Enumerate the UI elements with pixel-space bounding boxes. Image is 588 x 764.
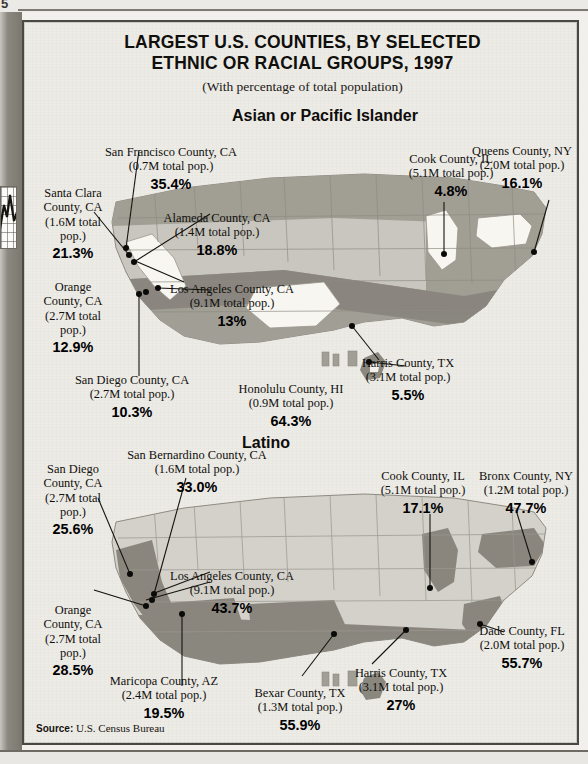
infographic-panel: LARGEST U.S. COUNTIES, BY SELECTED ETHNI…: [22, 20, 579, 745]
callout-los-angeles-latino: Los Angeles County, CA (9.1M total pop.)…: [152, 555, 312, 632]
county-percent: 5.5%: [330, 386, 486, 405]
county-percent: 10.3%: [52, 403, 212, 422]
county-name: San Diego County, CA: [75, 373, 189, 387]
title-line-2: ETHNIC OR RACIAL GROUPS, 1997: [24, 53, 581, 74]
county-percent: 55.7%: [456, 654, 588, 673]
page-top-rule: [18, 9, 588, 11]
callout-san-diego-asian: San Diego County, CA (2.7M total pop.) 1…: [52, 359, 212, 436]
county-name: San Bernardino County, CA: [127, 448, 267, 462]
county-name: Maricopa County, AZ: [110, 674, 218, 688]
county-percent: 19.5%: [86, 704, 242, 723]
county-percent: 33.0%: [104, 478, 290, 497]
edge-thumbnail-chart: [0, 186, 17, 249]
page-left-gutter: [0, 12, 22, 752]
county-population: (9.1M total pop.): [190, 296, 275, 310]
callout-bronx-latino: Bronx County, NY (1.2M total pop.) 47.7%: [464, 455, 588, 532]
county-population: (2.4M total pop.): [122, 688, 207, 702]
callout-harris-latino: Harris County, TX (3.1M total pop.) 27%: [326, 652, 476, 729]
title-line-1: LARGEST U.S. COUNTIES, BY SELECTED: [24, 32, 581, 53]
county-name: Dade County, FL: [479, 624, 565, 638]
county-name: Honolulu County, HI: [239, 382, 344, 396]
county-percent: 25.6%: [22, 520, 124, 539]
county-population: (2.7M total pop.): [45, 309, 101, 337]
county-name: Alameda County, CA: [164, 211, 271, 225]
county-name: Queens County, NY: [472, 144, 572, 158]
county-population: (5.1M total pop.): [381, 483, 466, 497]
county-population: (0.7M total pop.): [129, 159, 214, 173]
county-population: (2.0M total pop.): [480, 158, 565, 172]
county-name: Bronx County, NY: [479, 469, 573, 483]
county-population: (1.2M total pop.): [484, 483, 569, 497]
callout-queens-asian: Queens County, NY (2.0M total pop.) 16.1…: [454, 130, 588, 207]
callout-san-bernardino-latino: San Bernardino County, CA (1.6M total po…: [104, 434, 290, 511]
county-population: (0.9M total pop.): [249, 396, 334, 410]
county-name: Cook County, IL: [381, 469, 465, 483]
section-heading-asian: Asian or Pacific Islander: [232, 107, 418, 125]
county-name: Orange County, CA: [43, 280, 102, 308]
county-name: Los Angeles County, CA: [170, 282, 294, 296]
county-percent: 13%: [152, 312, 312, 331]
county-population: (9.1M total pop.): [190, 583, 275, 597]
callout-harris-asian: Harris County, TX (3.1M total pop.) 5.5%: [330, 342, 486, 419]
infographic-page: 5 LARGEST U.S. COUNTIES, BY SELECTED ETH…: [0, 0, 588, 764]
county-name: Los Angeles County, CA: [170, 569, 294, 583]
county-percent: 18.8%: [140, 241, 294, 260]
callout-santa-clara-asian: Santa Clara County, CA (1.6M total pop.)…: [22, 172, 124, 277]
county-name: San Francisco County, CA: [105, 145, 237, 159]
county-name: Orange County, CA: [43, 603, 102, 631]
county-population: (2.7M total pop.): [90, 387, 175, 401]
page-corner-marker: 5: [1, 0, 8, 11]
county-name: San Diego County, CA: [43, 462, 102, 490]
county-population: (1.4M total pop.): [175, 225, 260, 239]
county-percent: 43.7%: [152, 599, 312, 618]
callout-los-angeles-asian: Los Angeles County, CA (9.1M total pop.)…: [152, 268, 312, 345]
page-bottom-margin: [0, 752, 588, 764]
source-value: U.S. Census Bureau: [76, 722, 165, 734]
source-line: Source: U.S. Census Bureau: [36, 722, 165, 734]
county-name: Harris County, TX: [355, 666, 447, 680]
county-percent: 47.7%: [464, 499, 588, 518]
county-percent: 21.3%: [22, 244, 124, 263]
callout-orange-asian: Orange County, CA (2.7M total pop.) 12.9…: [22, 266, 124, 371]
county-population: (2.7M total pop.): [45, 632, 101, 660]
page-subtitle: (With percentage of total population): [24, 79, 581, 95]
page-title: LARGEST U.S. COUNTIES, BY SELECTED ETHNI…: [24, 32, 581, 74]
county-population: (1.6M total pop.): [155, 462, 240, 476]
county-population: (3.1M total pop.): [366, 370, 451, 384]
source-label: Source:: [36, 723, 73, 734]
county-population: (3.1M total pop.): [359, 680, 444, 694]
callout-dade-latino: Dade County, FL (2.0M total pop.) 55.7%: [456, 610, 588, 687]
county-population: (2.7M total pop.): [45, 491, 101, 519]
county-name: Santa Clara County, CA: [43, 186, 102, 214]
county-percent: 12.9%: [22, 338, 124, 357]
county-percent: 27%: [326, 696, 476, 715]
county-name: Harris County, TX: [362, 356, 454, 370]
county-population: (2.0M total pop.): [480, 638, 565, 652]
county-percent: 16.1%: [454, 174, 588, 193]
callout-alameda-asian: Alameda County, CA (1.4M total pop.) 18.…: [140, 197, 294, 274]
county-population: (1.6M total pop.): [45, 215, 101, 243]
thumbnail-line-icon: [1, 187, 17, 249]
